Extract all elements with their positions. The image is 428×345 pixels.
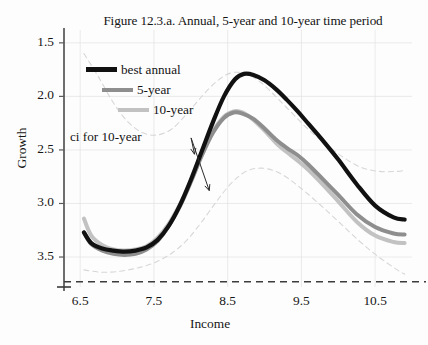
legend-label: best annual	[121, 62, 181, 78]
x-tick-label: 6.5	[58, 293, 102, 309]
legend-item-best-annual[interactable]: best annual	[86, 61, 181, 78]
legend-item-10-year[interactable]: 10-year	[118, 101, 193, 118]
legend-swatch-icon	[118, 108, 149, 112]
x-tick-label: 10.5	[353, 293, 397, 309]
legend-swatch-icon	[86, 67, 117, 71]
legend-item-5-year[interactable]: 5-year	[102, 81, 171, 98]
x-tick-label: 8.5	[206, 293, 250, 309]
figure-container: Figure 12.3.a. Annual, 5-year and 10-yea…	[0, 0, 428, 345]
ci-annotation-label: ci for 10-year	[70, 129, 142, 145]
x-tick-label: 7.5	[132, 293, 176, 309]
legend-label: 10-year	[153, 102, 193, 118]
legend-label: 5-year	[137, 82, 171, 98]
y-tick-label: 2.0	[14, 87, 54, 103]
y-tick-label: 1.5	[14, 34, 54, 50]
y-tick-label: 3.0	[14, 194, 54, 210]
x-tick-label: 9.5	[279, 293, 323, 309]
x-axis-title: Income	[150, 316, 270, 332]
y-tick-label: 2.5	[14, 141, 54, 157]
y-tick-label: 3.5	[14, 248, 54, 264]
legend-swatch-icon	[102, 88, 133, 92]
